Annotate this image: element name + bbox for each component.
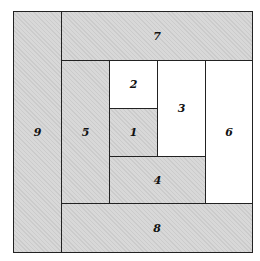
block-9-label: 9 [34,126,42,139]
block-9: 9 [13,11,62,253]
block-3: 3 [157,60,206,157]
block-4: 4 [109,156,206,204]
block-7-label: 7 [153,30,161,43]
block-1-label: 1 [130,126,138,139]
block-5: 5 [61,60,110,204]
block-6: 6 [205,60,253,204]
block-8-label: 8 [153,222,161,235]
block-2-label: 2 [130,78,138,91]
block-8: 8 [61,203,253,253]
block-1: 1 [109,108,158,157]
block-6-label: 6 [225,126,233,139]
block-3-label: 3 [178,102,186,115]
block-2: 2 [109,60,158,109]
block-5-label: 5 [82,126,90,139]
block-4-label: 4 [154,174,162,187]
block-7: 7 [61,11,253,61]
